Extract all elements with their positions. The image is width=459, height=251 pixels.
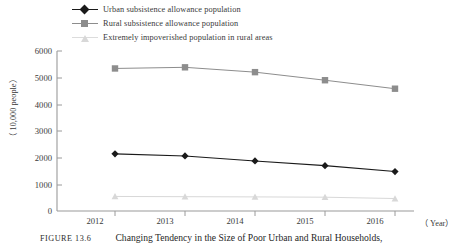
diamond-marker-icon	[321, 162, 328, 169]
square-marker-icon	[182, 64, 188, 70]
chart-svg	[0, 40, 459, 230]
figure-caption-text: Changing Tendency in the Size of Poor Ur…	[115, 232, 382, 243]
diamond-marker-icon	[111, 150, 118, 157]
chart-legend: Urban subsistence allowance population R…	[72, 3, 372, 45]
square-marker-icon	[252, 69, 258, 75]
legend-label-rural: Rural subsistence allowance population	[103, 18, 238, 29]
square-marker-icon	[392, 86, 398, 92]
diamond-marker-icon	[181, 152, 188, 159]
series-line-urban	[111, 150, 398, 175]
legend-item-rural: Rural subsistence allowance population	[72, 17, 372, 30]
legend-item-urban: Urban subsistence allowance population	[72, 3, 372, 16]
square-marker-icon	[112, 65, 118, 71]
x-axis-ticks	[115, 211, 395, 216]
figure-container: Urban subsistence allowance population R…	[0, 0, 459, 251]
y-axis-ticks	[57, 51, 62, 185]
series-line-impoverished	[112, 193, 399, 201]
figure-caption: FIGURE 13.6 Changing Tendency in the Siz…	[0, 232, 459, 243]
legend-label-urban: Urban subsistence allowance population	[103, 4, 241, 15]
series-line-rural	[112, 64, 398, 92]
square-marker-icon	[72, 18, 98, 30]
diamond-marker-icon	[391, 168, 398, 175]
square-marker-icon	[322, 77, 328, 83]
figure-number: FIGURE 13.6	[40, 234, 91, 243]
diamond-marker-icon	[72, 4, 98, 16]
plot-area: （ 10,000 people） 6000 5000 4000 3000 200…	[0, 40, 459, 230]
diamond-marker-icon	[251, 157, 258, 164]
